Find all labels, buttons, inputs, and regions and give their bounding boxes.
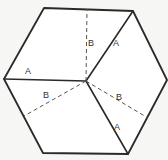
label-b: B [116, 92, 122, 102]
label-b: B [88, 38, 94, 48]
label-b: B [43, 90, 49, 100]
label-a: A [25, 66, 31, 76]
label-a: A [114, 122, 120, 132]
hexagon-diagram: ABABBA [0, 0, 168, 160]
label-a: A [113, 38, 119, 48]
